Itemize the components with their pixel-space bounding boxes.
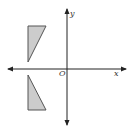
lower-triangle xyxy=(28,75,46,110)
x-axis-label: x xyxy=(114,69,119,78)
origin-label: O xyxy=(59,69,66,78)
upper-triangle xyxy=(28,26,46,62)
y-axis-label: y xyxy=(69,9,75,18)
coordinate-plane: y x O xyxy=(0,0,132,128)
